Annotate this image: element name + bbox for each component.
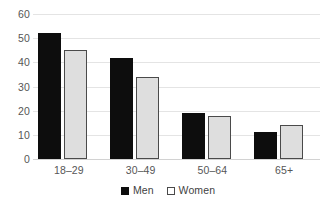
bar-men-2	[182, 113, 205, 159]
x-axis-tick-label: 18–29	[33, 164, 105, 176]
legend-label-women: Women	[179, 185, 216, 196]
bar-women-2	[208, 116, 231, 160]
legend-swatch-women-icon	[167, 187, 175, 195]
x-axis-tick-label: 30–49	[105, 164, 177, 176]
y-axis-tick-label: 60	[2, 9, 30, 20]
gridline	[33, 14, 320, 15]
y-axis-tick-label: 20	[2, 106, 30, 117]
chart-legend: Men Women	[0, 185, 336, 196]
y-axis-tick-label: 50	[2, 33, 30, 44]
bar-men-1	[110, 58, 133, 160]
y-axis-tick-labels: 6050403020100	[0, 14, 30, 159]
y-axis-tick-label: 0	[2, 154, 30, 165]
x-axis-tick-label: 50–64	[177, 164, 249, 176]
bar-women-0	[64, 50, 87, 159]
bar-women-3	[280, 125, 303, 159]
bar-men-0	[38, 33, 61, 159]
plot-area	[33, 14, 320, 159]
bar-chart: 6050403020100 18–2930–4950–6465+ Men Wom…	[0, 0, 336, 206]
gridline	[33, 38, 320, 39]
x-axis-tick-labels: 18–2930–4950–6465+	[33, 164, 320, 180]
gridline	[33, 159, 320, 160]
legend-label-men: Men	[133, 185, 154, 196]
y-axis-tick-label: 30	[2, 82, 30, 93]
y-axis-tick-label: 40	[2, 57, 30, 68]
x-axis-tick-label: 65+	[248, 164, 320, 176]
legend-swatch-men-icon	[121, 187, 129, 195]
legend-entry-men[interactable]: Men	[121, 185, 154, 196]
y-axis-tick-label: 10	[2, 130, 30, 141]
bar-women-1	[136, 77, 159, 159]
bar-men-3	[254, 132, 277, 159]
legend-entry-women[interactable]: Women	[167, 185, 216, 196]
